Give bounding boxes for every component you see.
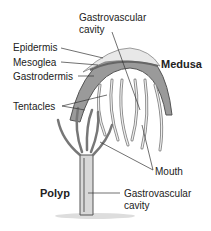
mouth-label: Mouth <box>155 166 183 177</box>
mesoglea-label: Mesoglea <box>13 57 56 68</box>
gastrovascular-cavity-top-label: Gastrovascular <box>79 12 146 23</box>
epidermis-label: Epidermis <box>13 42 57 53</box>
gastrovascular-cavity-bottom-label-2: cavity <box>124 200 150 211</box>
medusa-label: Medusa <box>161 59 202 70</box>
polyp-label: Polyp <box>40 188 70 199</box>
tentacles-label: Tentacles <box>13 101 55 112</box>
gastrovascular-cavity-top-label-2: cavity <box>79 24 105 35</box>
gastrovascular-cavity-bottom-label: Gastrovascular <box>124 188 191 199</box>
gastrodermis-label: Gastrodermis <box>13 71 73 82</box>
